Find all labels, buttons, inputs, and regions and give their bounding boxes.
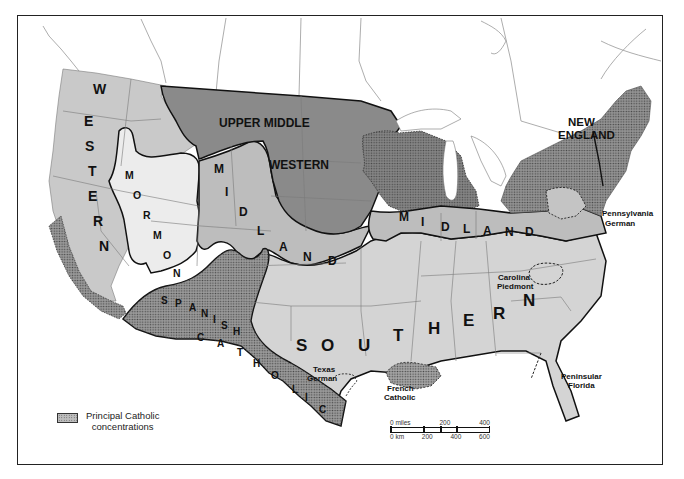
legend-hatch-swatch-icon: [57, 413, 78, 423]
label-upper-middle: UPPER MIDDLE: [219, 116, 310, 130]
catholic-hatch: [363, 131, 479, 211]
scale-km-row: 0 km 200 400 600: [390, 433, 490, 441]
legend-text: Principal Catholic concentrations: [86, 410, 159, 432]
scale-miles-0: 0 miles: [390, 419, 411, 427]
label-pennsylvania-german-1: Pennsylvania: [602, 209, 654, 218]
scale-km-600: 600: [479, 433, 490, 441]
label-pennsylvania-german-2: German: [605, 219, 635, 228]
label-french-catholic-2: Catholic: [384, 393, 416, 402]
label-peninsular-florida-2: Florida: [568, 381, 595, 390]
legend: Principal Catholic concentrations: [57, 410, 159, 432]
scale-km-0: 0 km: [390, 433, 404, 441]
us-cultural-regions-map: W E S T E R N M O R M O N UPPER MIDDLE W…: [18, 16, 663, 465]
label-carolina-piedmont-2: Piedmont: [497, 282, 534, 291]
scale-km-400: 400: [450, 433, 461, 441]
label-western-upper: WESTERN: [269, 158, 329, 172]
label-england: ENGLAND: [558, 129, 615, 141]
label-peninsular-florida-1: Peninsular: [561, 372, 602, 381]
scale-line: [390, 427, 490, 433]
scale-km-200: 200: [422, 433, 433, 441]
florida-boundary: [531, 353, 541, 379]
label-french-catholic-1: French: [387, 384, 414, 393]
label-new: NEW: [568, 116, 595, 128]
legend-line2: concentrations: [86, 421, 159, 432]
map-frame: W E S T E R N M O R M O N UPPER MIDDLE W…: [17, 15, 663, 465]
label-carolina-piedmont-1: Carolina: [498, 273, 531, 282]
label-texas-german-1: Texas: [313, 365, 336, 374]
legend-line1: Principal Catholic: [86, 410, 159, 421]
label-texas-german-2: German: [307, 374, 337, 383]
scale-bar: 0 miles 200 400 0 km 200 400 600: [390, 419, 490, 441]
